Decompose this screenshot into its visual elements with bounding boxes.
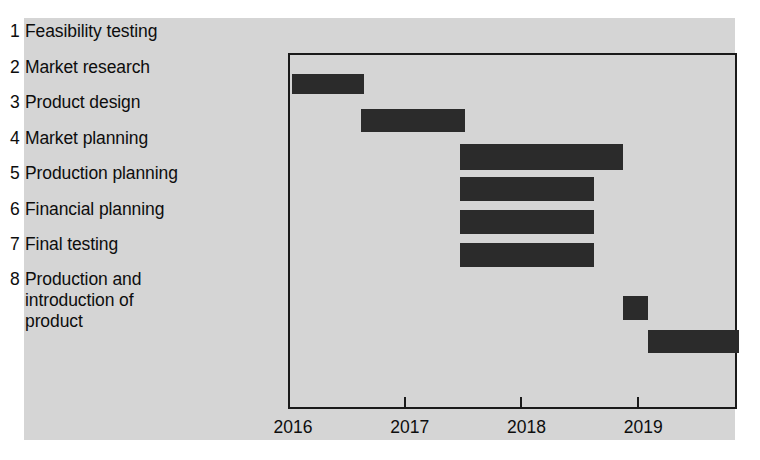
gantt-bar-7	[623, 296, 649, 320]
x-axis-ticks	[288, 397, 737, 409]
task-label-7: 7Final testing	[10, 233, 238, 255]
task-label-4: 4Market planning	[10, 127, 238, 149]
task-label-2: 2Market research	[10, 56, 238, 78]
task-label-column: 1Feasibility testing2Market research3Pro…	[10, 20, 238, 345]
x-tick-label-2018: 2018	[507, 415, 546, 439]
gantt-bar-5	[460, 210, 593, 234]
task-label-3: 3Product design	[10, 91, 238, 113]
gantt-bar-1	[292, 74, 363, 94]
task-number: 7	[10, 233, 25, 255]
task-name: Product design	[25, 91, 238, 113]
task-name: Financial planning	[25, 198, 238, 220]
task-name: Market planning	[25, 127, 238, 149]
x-tick-label-2016: 2016	[274, 415, 313, 439]
task-name: Production and introduction of product	[25, 269, 238, 332]
task-name: Final testing	[25, 233, 238, 255]
x-tick-2019	[637, 397, 639, 409]
task-name: Production planning	[25, 162, 238, 184]
task-number: 3	[10, 91, 25, 113]
task-label-5: 5Production planning	[10, 162, 238, 184]
task-label-1: 1Feasibility testing	[10, 20, 238, 42]
task-number: 1	[10, 20, 25, 42]
gantt-bar-2	[361, 109, 465, 132]
gantt-bar-4	[460, 177, 593, 201]
x-axis-year-labels: 2016201720182019	[288, 415, 748, 443]
gantt-bar-6	[460, 243, 593, 267]
x-tick-label-2017: 2017	[390, 415, 429, 439]
task-label-6: 6Financial planning	[10, 198, 238, 220]
task-number: 6	[10, 198, 25, 220]
gantt-plot-frame	[288, 53, 737, 409]
task-label-8: 8Production and introduction of product	[10, 269, 238, 332]
gantt-bar-3	[460, 144, 622, 170]
task-number: 4	[10, 127, 25, 149]
gantt-bar-8	[648, 330, 739, 353]
x-tick-label-2019: 2019	[624, 415, 663, 439]
task-name: Feasibility testing	[25, 20, 238, 42]
task-number: 8	[10, 269, 25, 290]
x-tick-2017	[404, 397, 406, 409]
task-name: Market research	[25, 56, 238, 78]
gantt-bars-layer	[290, 55, 735, 407]
x-tick-2018	[520, 397, 522, 409]
task-number: 2	[10, 56, 25, 78]
task-number: 5	[10, 162, 25, 184]
